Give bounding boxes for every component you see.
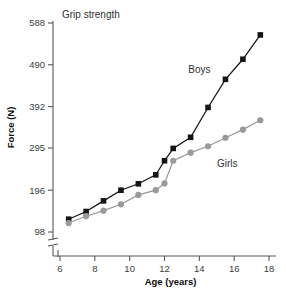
datapoint-boys-11 xyxy=(240,56,246,62)
datapoint-girls-9 xyxy=(205,143,211,149)
x-tick-label-18: 18 xyxy=(264,263,275,274)
datapoint-girls-1 xyxy=(83,213,89,219)
datapoint-boys-3 xyxy=(118,187,124,193)
datapoint-girls-0 xyxy=(66,220,72,226)
datapoint-girls-11 xyxy=(240,127,246,133)
y-tick-label-196: 196 xyxy=(29,185,45,196)
x-axis-title: Age (years) xyxy=(145,276,197,287)
datapoint-girls-10 xyxy=(222,135,228,141)
x-tick-label-14: 14 xyxy=(194,263,205,274)
chart-title: Grip strength xyxy=(62,9,120,20)
datapoint-boys-9 xyxy=(205,105,211,111)
datapoint-girls-7 xyxy=(170,158,176,164)
datapoint-girls-12 xyxy=(257,117,263,123)
datapoint-boys-4 xyxy=(136,181,142,187)
x-tick-label-8: 8 xyxy=(92,263,97,274)
x-tick-label-12: 12 xyxy=(159,263,170,274)
series-label-girls: Girls xyxy=(217,158,238,169)
datapoint-boys-2 xyxy=(101,198,107,204)
datapoint-girls-6 xyxy=(161,180,167,186)
datapoint-boys-7 xyxy=(170,146,176,152)
x-tick-label-6: 6 xyxy=(57,263,62,274)
datapoint-girls-8 xyxy=(188,150,194,156)
datapoint-boys-12 xyxy=(258,32,264,38)
datapoint-girls-5 xyxy=(153,187,159,193)
y-tick-label-588: 588 xyxy=(29,17,45,28)
datapoint-girls-2 xyxy=(100,208,106,214)
x-tick-label-16: 16 xyxy=(229,263,240,274)
datapoint-boys-5 xyxy=(153,172,159,178)
y-tick-label-392: 392 xyxy=(29,101,45,112)
datapoint-boys-6 xyxy=(162,158,168,164)
y-axis-break-lower xyxy=(48,244,58,246)
datapoint-girls-3 xyxy=(118,201,124,207)
grip-strength-chart: Grip strength981962953924905886810121416… xyxy=(0,0,286,290)
x-tick-label-10: 10 xyxy=(124,263,135,274)
series-line-boys xyxy=(69,35,261,219)
y-axis-title: Force (N) xyxy=(5,107,16,149)
y-tick-label-98: 98 xyxy=(34,226,45,237)
series-label-boys: Boys xyxy=(188,64,210,75)
datapoint-girls-4 xyxy=(135,192,141,198)
y-tick-label-490: 490 xyxy=(29,59,45,70)
datapoint-boys-8 xyxy=(188,135,194,141)
series-line-girls xyxy=(69,120,261,223)
datapoint-boys-10 xyxy=(223,77,229,83)
chart-canvas: Grip strength981962953924905886810121416… xyxy=(0,0,286,290)
y-tick-label-295: 295 xyxy=(29,142,45,153)
